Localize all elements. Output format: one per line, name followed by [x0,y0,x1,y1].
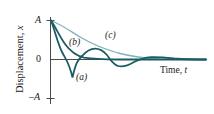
y-tick-label-amplitude: A [35,15,41,25]
y-tick-label-negative-amplitude: –A [29,92,40,102]
y-axis-label: Displacement, x [15,13,26,105]
y-tick-label-zero: 0 [36,54,41,64]
x-axis-variable: t [184,65,187,75]
x-axis-label: Time, t [160,66,187,76]
curve-label-c: (c) [105,31,116,41]
curve-label-b: (b) [69,38,80,48]
curve-label-a: (a) [76,73,87,83]
y-axis-variable: x [14,25,25,30]
damped-oscillation-figure: Displacement, x Time, t A 0 –A (a) (b) (… [0,0,214,114]
